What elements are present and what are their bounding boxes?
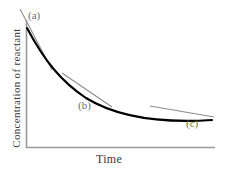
y-axis-label: Concentration of reactant <box>10 28 22 148</box>
annotation-label-b: (b) <box>78 99 91 111</box>
kinetics-decay-figure: Concentration of reactant Time (a) (b) (… <box>0 0 225 173</box>
annotation-label-c: (c) <box>186 117 198 129</box>
x-axis-label: Time <box>96 152 122 167</box>
tangent-line-c <box>150 106 214 117</box>
plot-area <box>0 0 225 173</box>
annotation-label-a: (a) <box>28 9 40 21</box>
decay-curve <box>27 28 212 121</box>
